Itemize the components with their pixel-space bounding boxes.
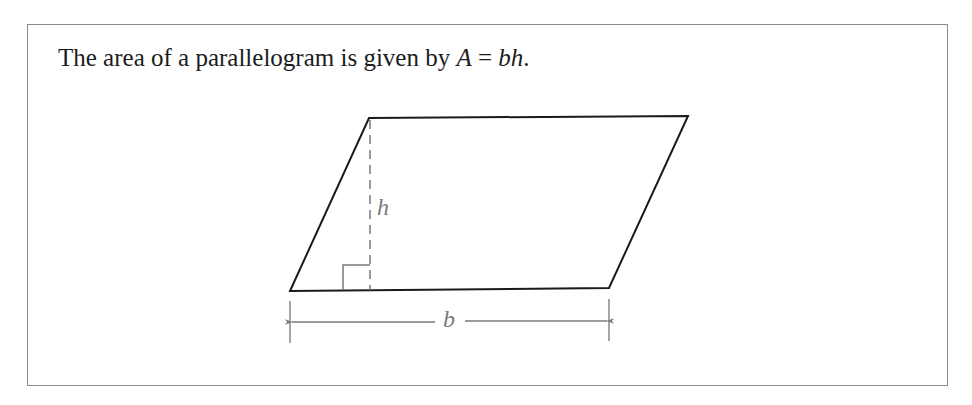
parallelogram-figure: [0, 0, 972, 405]
right-angle-marker: [343, 265, 370, 290]
base-label: b: [443, 306, 455, 333]
height-label: h: [377, 194, 389, 221]
